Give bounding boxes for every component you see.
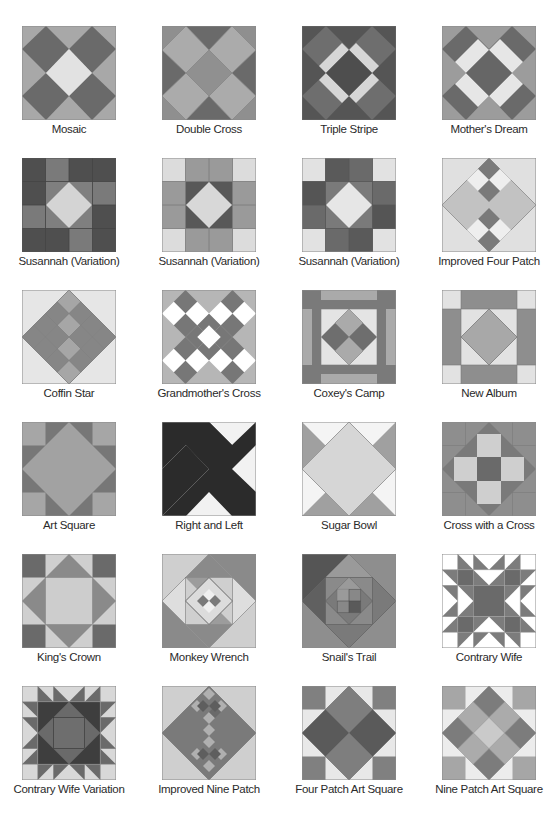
quilt-block-improved-four-patch: Improved Four Patch <box>429 158 549 282</box>
block-label: Sugar Bowl <box>279 519 419 531</box>
right-and-left-pattern <box>162 422 256 516</box>
quilt-block-contrary-wife-variation: Contrary Wife Variation <box>9 686 129 810</box>
block-label: Susannah (Variation) <box>139 255 279 267</box>
quilt-block-sugar-bowl: Sugar Bowl <box>289 422 409 546</box>
contrary-wife-pattern <box>442 554 536 648</box>
quilt-block-triple-stripe: Triple Stripe <box>289 26 409 150</box>
four-patch-art-square-pattern <box>302 686 396 780</box>
sugar-bowl-pattern <box>302 422 396 516</box>
mothers-dream-pattern <box>442 26 536 120</box>
improved-nine-patch-pattern <box>162 686 256 780</box>
block-label: Mosaic <box>0 123 139 135</box>
block-label: New Album <box>419 387 557 399</box>
grandmothers-cross-pattern <box>162 290 256 384</box>
double-cross-pattern <box>162 26 256 120</box>
block-label: Nine Patch Art Square <box>419 783 557 795</box>
block-label: Improved Nine Patch <box>139 783 279 795</box>
coffin-star-pattern <box>22 290 116 384</box>
block-label: Snail's Trail <box>279 651 419 663</box>
quilt-block-double-cross: Double Cross <box>149 26 269 150</box>
quilt-block-coffin-star: Coffin Star <box>9 290 129 414</box>
block-label: Double Cross <box>139 123 279 135</box>
quilt-block-contrary-wife: Contrary Wife <box>429 554 549 678</box>
block-label: Grandmother's Cross <box>139 387 279 399</box>
snails-trail-pattern <box>302 554 396 648</box>
block-label: Susannah (Variation) <box>279 255 419 267</box>
quilt-block-art-square: Art Square <box>9 422 129 546</box>
quilt-block-snails-trail: Snail's Trail <box>289 554 409 678</box>
quilt-block-nine-patch-art-square: Nine Patch Art Square <box>429 686 549 810</box>
contrary-wife-variation-pattern <box>22 686 116 780</box>
monkey-wrench-pattern <box>162 554 256 648</box>
quilt-block-mothers-dream: Mother's Dream <box>429 26 549 150</box>
block-label: Right and Left <box>139 519 279 531</box>
susannah-variation-pattern <box>162 158 256 252</box>
quilt-block-grandmothers-cross: Grandmother's Cross <box>149 290 269 414</box>
block-label: Improved Four Patch <box>419 255 557 267</box>
quilt-block-four-patch-art-square: Four Patch Art Square <box>289 686 409 810</box>
block-label: King's Crown <box>0 651 139 663</box>
quilt-block-susannah-variation-1: Susannah (Variation) <box>9 158 129 282</box>
triple-stripe-pattern <box>302 26 396 120</box>
cross-with-a-cross-pattern <box>442 422 536 516</box>
block-label: Four Patch Art Square <box>279 783 419 795</box>
art-square-pattern <box>22 422 116 516</box>
block-label: Coffin Star <box>0 387 139 399</box>
quilt-block-mosaic: Mosaic <box>9 26 129 150</box>
block-label: Contrary Wife Variation <box>0 783 139 795</box>
block-label: Art Square <box>0 519 139 531</box>
quilt-block-improved-nine-patch: Improved Nine Patch <box>149 686 269 810</box>
quilt-block-susannah-variation-3: Susannah (Variation) <box>289 158 409 282</box>
kings-crown-pattern <box>22 554 116 648</box>
block-label: Coxey's Camp <box>279 387 419 399</box>
quilt-block-monkey-wrench: Monkey Wrench <box>149 554 269 678</box>
quilt-block-cross-with-a-cross: Cross with a Cross <box>429 422 549 546</box>
block-label: Contrary Wife <box>419 651 557 663</box>
quilt-block-right-and-left: Right and Left <box>149 422 269 546</box>
quilt-block-new-album: New Album <box>429 290 549 414</box>
quilt-block-kings-crown: King's Crown <box>9 554 129 678</box>
coxeys-camp-pattern <box>302 290 396 384</box>
susannah-variation-pattern <box>22 158 116 252</box>
block-label: Mother's Dream <box>419 123 557 135</box>
block-label: Cross with a Cross <box>419 519 557 531</box>
block-label: Susannah (Variation) <box>0 255 139 267</box>
new-album-pattern <box>442 290 536 384</box>
block-label: Monkey Wrench <box>139 651 279 663</box>
quilt-block-susannah-variation-2: Susannah (Variation) <box>149 158 269 282</box>
susannah-variation-pattern <box>302 158 396 252</box>
mosaic-pattern <box>22 26 116 120</box>
nine-patch-art-square-pattern <box>442 686 536 780</box>
quilt-block-coxeys-camp: Coxey's Camp <box>289 290 409 414</box>
block-label: Triple Stripe <box>279 123 419 135</box>
improved-four-patch-pattern <box>442 158 536 252</box>
